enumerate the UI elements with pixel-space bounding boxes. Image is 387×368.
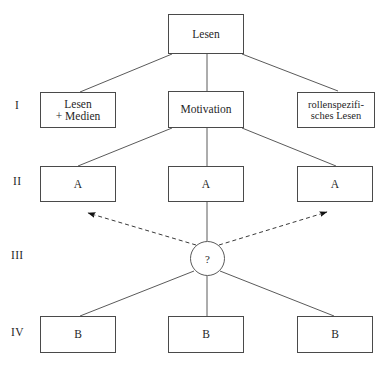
- node-b-right-label: B: [329, 328, 341, 340]
- node-motivation-label: Motivation: [178, 103, 233, 115]
- node-b-left-label: B: [72, 328, 84, 340]
- edge-hub-to-b-left: [80, 271, 194, 316]
- node-b-right[interactable]: B: [297, 316, 373, 353]
- node-a-right[interactable]: A: [297, 166, 373, 202]
- edge-hub-to-a-left-arrow: [88, 213, 196, 245]
- edge-motivation-to-a-left: [78, 128, 172, 166]
- edge-hub-to-b-right: [220, 271, 334, 316]
- node-lesen-medien-label: Lesen + Medien: [54, 98, 103, 123]
- node-b-center[interactable]: B: [168, 316, 244, 353]
- level-label-iii: III: [11, 249, 23, 261]
- node-a-center[interactable]: A: [168, 166, 244, 202]
- node-a-right-label: A: [329, 178, 341, 190]
- node-b-center-label: B: [200, 328, 212, 340]
- node-b-left[interactable]: B: [40, 316, 116, 353]
- level-label-iv: IV: [11, 326, 24, 338]
- node-a-center-label: A: [200, 178, 212, 190]
- level-label-ii: II: [13, 175, 21, 187]
- edge-root-to-rollenspezifisches: [242, 54, 338, 91]
- level-label-i: I: [15, 99, 19, 111]
- node-lesen[interactable]: Lesen: [168, 14, 244, 54]
- node-motivation[interactable]: Motivation: [168, 91, 244, 128]
- edge-motivation-to-a-right: [242, 128, 336, 166]
- node-a-left[interactable]: A: [40, 166, 116, 202]
- node-lesen-label: Lesen: [190, 28, 221, 40]
- node-hub-question-label: ?: [205, 253, 210, 265]
- node-lesen-medien[interactable]: Lesen + Medien: [40, 92, 116, 128]
- node-a-left-label: A: [72, 178, 84, 190]
- edge-root-to-lesen-medien: [80, 54, 172, 92]
- node-hub-question[interactable]: ?: [190, 241, 225, 276]
- diagram-canvas: I II III IV Lesen Lesen + Medien Motivat…: [0, 0, 387, 368]
- node-rollenspezifisches-lesen[interactable]: rollenspezifi- sches Lesen: [297, 92, 375, 128]
- node-rollenspezifisches-lesen-label: rollenspezifi- sches Lesen: [306, 99, 366, 122]
- edge-hub-to-a-right-arrow: [219, 212, 327, 245]
